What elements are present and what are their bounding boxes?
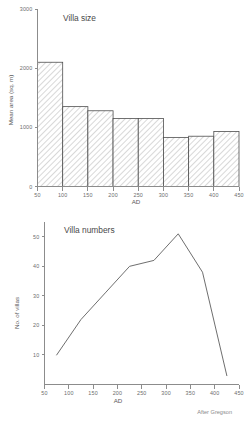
y-tick-label: 3000 [20,6,33,12]
x-axis-ticks: 50100150200250300350400450 [41,385,244,397]
y-tick-label: 0 [29,184,32,190]
y-tick-label: 40 [33,263,39,269]
y-tick-label: 1000 [20,124,33,130]
bar [163,137,188,186]
x-tick-label: 100 [58,192,68,198]
figure-credit: After Gregson [197,409,232,415]
bar [63,107,88,187]
x-tick-label: 250 [137,390,147,396]
y-axis-ticks: 0100020003000 [20,6,38,190]
chart-villa-numbers: 1020304050 50100150200250300350400450 Vi… [0,208,246,424]
bar [88,111,113,187]
x-tick-label: 350 [186,390,196,396]
y-axis-label-bottom: No. of villas [13,297,20,329]
line-chart-plot-area: 1020304050 50100150200250300350400450 [33,222,244,396]
y-tick-label: 2000 [20,65,33,71]
x-tick-label: 300 [159,192,169,198]
y-axis-ticks: 1020304050 [33,234,44,358]
y-tick-label: 50 [33,234,39,240]
x-tick-label: 450 [234,390,244,396]
x-axis-label-top: AD [132,198,141,205]
x-tick-label: 50 [41,390,47,396]
x-tick-label: 300 [161,390,171,396]
bar [113,118,138,186]
y-tick-label: 10 [33,352,39,358]
y-tick-label: 30 [33,293,39,299]
x-tick-label: 200 [108,192,118,198]
bar-chart-plot-area: 0100020003000 50100150200250300350400450 [20,6,244,198]
x-tick-label: 450 [234,192,244,198]
bar [138,118,163,186]
x-tick-label: 150 [88,390,98,396]
x-tick-label: 400 [209,192,219,198]
x-tick-label: 150 [83,192,93,198]
y-tick-label: 20 [33,322,39,328]
bar [189,136,214,186]
x-tick-label: 100 [64,390,74,396]
chart-title-villa-size: Villa size [63,13,96,23]
x-tick-label: 350 [184,192,194,198]
bar [38,62,63,186]
bar [214,131,239,186]
x-tick-label: 200 [113,390,123,396]
x-axis-ticks: 50100150200250300350400450 [34,187,244,199]
villa-numbers-line-series [57,234,227,376]
y-axis-label-top: Mean area (sq. m) [7,75,14,126]
x-tick-label: 400 [210,390,220,396]
x-tick-label: 50 [34,192,40,198]
chart-title-villa-numbers: Villa numbers [64,225,115,235]
x-axis-label-bottom: AD [114,397,123,404]
chart-villa-size: 0100020003000 50100150200250300350400450… [0,0,246,208]
figure-villa-size-and-numbers: 0100020003000 50100150200250300350400450… [0,0,246,424]
bar-series [38,62,240,186]
